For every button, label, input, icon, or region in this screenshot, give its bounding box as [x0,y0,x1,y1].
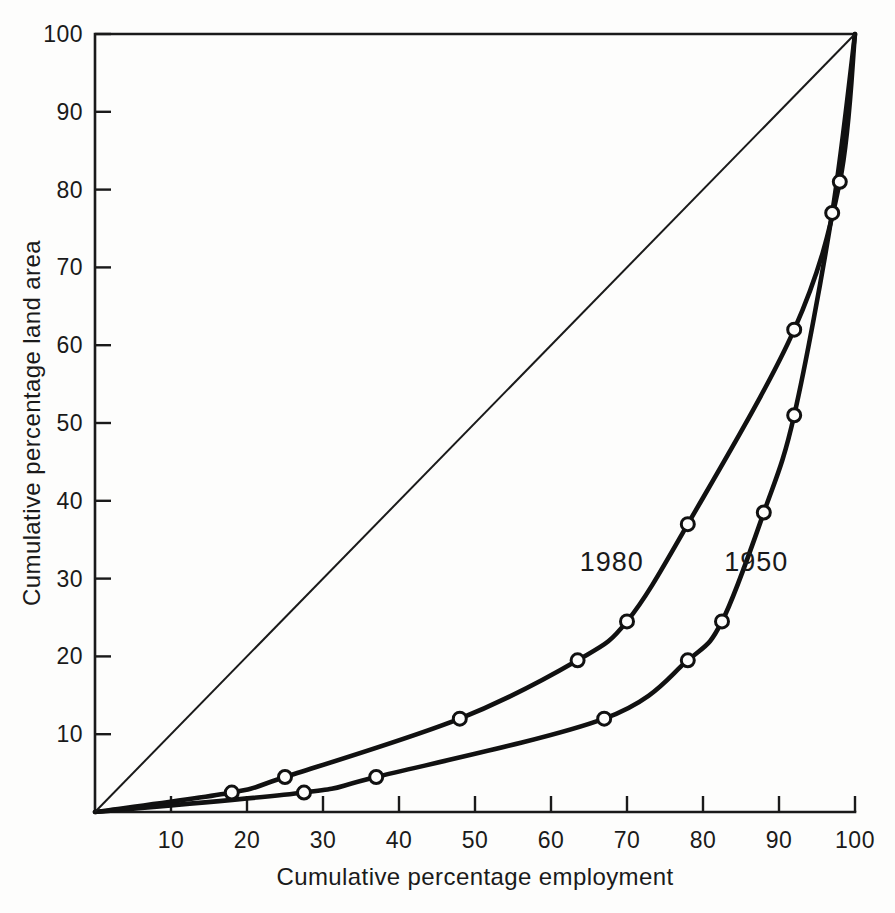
data-point-marker-1950 [716,615,729,628]
lorenz-curve-chart: 1020304050607080901001020304050607080901… [0,0,895,913]
data-point-marker-1980 [279,770,292,783]
data-point-marker-1980 [621,615,634,628]
data-point-marker-1980 [833,175,846,188]
y-axis-tick-label: 40 [56,488,83,514]
data-point-marker-1980 [571,654,584,667]
data-point-marker-1950 [788,409,801,422]
data-point-marker-1980 [225,786,238,799]
x-axis-tick-label: 10 [158,827,185,853]
y-axis-title: Cumulative percentage land area [18,240,45,606]
data-point-marker-1950 [598,712,611,725]
series-annotation-1950: 1950 [724,547,788,577]
data-point-marker-1980 [788,323,801,336]
x-axis-tick-label: 30 [310,827,337,853]
chart-series [95,34,855,812]
data-point-marker-1950 [298,786,311,799]
x-axis-tick-label: 50 [462,827,489,853]
data-point-marker-1980 [681,518,694,531]
line-of-equality [95,34,855,812]
x-axis-tick-label: 80 [690,827,717,853]
data-point-marker-1950 [826,206,839,219]
x-axis-title: Cumulative percentage employment [277,863,674,890]
data-point-marker-1980 [453,712,466,725]
y-axis-tick-label: 10 [56,721,83,747]
chart-tick-labels: 1020304050607080901001020304050607080901… [43,21,875,853]
y-axis-tick-label: 30 [56,566,83,592]
chart-series-annotations: 19801950 [580,547,788,577]
y-axis-tick-label: 100 [43,21,83,47]
x-axis-tick-label: 90 [766,827,793,853]
y-axis-tick-label: 70 [56,254,83,280]
x-axis-tick-label: 20 [234,827,261,853]
y-axis-tick-label: 60 [56,332,83,358]
data-point-marker-1950 [757,506,770,519]
data-point-marker-1950 [681,654,694,667]
series-annotation-1980: 1980 [580,547,644,577]
x-axis-tick-label: 60 [538,827,565,853]
y-axis-tick-label: 80 [56,177,83,203]
y-axis-tick-label: 20 [56,643,83,669]
x-axis-tick-label: 40 [386,827,413,853]
chart-page: 1020304050607080901001020304050607080901… [0,0,895,913]
chart-data-markers [225,175,846,799]
y-axis-tick-label: 50 [56,410,83,436]
x-axis-tick-label: 100 [835,827,875,853]
x-axis-tick-label: 70 [614,827,641,853]
y-axis-tick-label: 90 [56,99,83,125]
data-point-marker-1950 [370,770,383,783]
